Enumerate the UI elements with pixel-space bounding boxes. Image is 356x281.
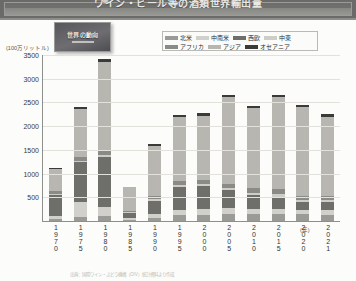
table-row[interactable] <box>173 115 186 221</box>
bar-segment-アジア <box>247 108 260 188</box>
bar-group: 1970197519801985199019952000200520102015… <box>43 55 340 221</box>
table-row[interactable] <box>272 95 285 221</box>
gridline <box>43 79 340 80</box>
table-row[interactable] <box>123 187 136 221</box>
legend-swatch-icon <box>196 36 209 40</box>
bar-slot: 1995 <box>167 55 192 221</box>
x-axis-tick-label: 2005 <box>225 224 233 252</box>
bar-segment-アジア <box>98 62 111 151</box>
bar-segment-西欧 <box>74 162 87 202</box>
legend-label: 中東 <box>279 34 291 42</box>
bar-segment-西欧 <box>321 202 334 210</box>
table-row[interactable] <box>321 114 334 221</box>
bar-segment-アジア <box>272 97 285 189</box>
legend-row-2: アフリカアジアオセアニア <box>165 42 315 51</box>
table-row[interactable] <box>74 107 87 221</box>
x-axis-tick-label: 1970 <box>51 224 59 252</box>
gridline <box>43 150 340 151</box>
bar-slot: 1985 <box>117 55 142 221</box>
gridline <box>43 197 340 198</box>
source-note: 出典：国際ワイン・ぶどう機構（OIV）統計資料より作成 <box>70 271 174 277</box>
bar-slot: 2005 <box>216 55 241 221</box>
legend-item-北米[interactable]: 北米 <box>165 34 192 42</box>
bar-slot: 1980 <box>93 55 118 221</box>
x-axis-tick-label: 1995 <box>175 224 183 252</box>
bar-segment-西欧 <box>296 202 309 209</box>
x-axis-unit: (年) <box>300 226 310 234</box>
bar-segment-中南米 <box>98 207 111 217</box>
table-row[interactable] <box>49 168 62 221</box>
legend-item-中南米[interactable]: 中南米 <box>196 34 229 42</box>
legend-item-中東[interactable]: 中東 <box>264 34 291 42</box>
bar-segment-北米 <box>49 219 62 221</box>
x-axis-tick-label: 2021 <box>324 224 332 252</box>
legend-item-アジア[interactable]: アジア <box>208 43 241 51</box>
bar-segment-北米 <box>321 215 334 221</box>
legend-label: オセアニア <box>260 43 290 51</box>
legend-item-オセアニア[interactable]: オセアニア <box>245 43 290 51</box>
legend-item-アフリカ[interactable]: アフリカ <box>165 43 204 51</box>
bar-segment-西欧 <box>148 201 161 214</box>
x-axis-tick-label: 2010 <box>249 224 257 252</box>
bar-slot: 1975 <box>68 55 93 221</box>
bar-segment-北米 <box>123 220 136 221</box>
bar-segment-北米 <box>197 215 210 221</box>
gridline <box>43 55 340 56</box>
table-row[interactable] <box>296 105 309 221</box>
gridline <box>43 174 340 175</box>
x-axis-tick-label: 2000 <box>200 224 208 252</box>
legend-label: 西欧 <box>248 34 260 42</box>
x-axis-tick-label: 1985 <box>126 224 134 252</box>
bar-segment-アジア <box>222 97 235 183</box>
bar-segment-北米 <box>173 215 186 221</box>
y-axis-tick-label: 3000 <box>23 75 39 82</box>
table-row[interactable] <box>197 113 210 221</box>
title-banner-frame: ワイン・ビール等の酒類世界輸出量 <box>4 2 352 16</box>
bar-segment-アジア <box>49 169 62 191</box>
bar-segment-アジア <box>148 146 161 197</box>
gridline <box>43 102 340 103</box>
bar-segment-北米 <box>148 218 161 221</box>
legend-label: 北米 <box>180 34 192 42</box>
table-row[interactable] <box>247 106 260 221</box>
bar-slot: 2021 <box>315 55 340 221</box>
y-axis-tick-label: 3500 <box>23 52 39 59</box>
bar-segment-北米 <box>98 216 111 221</box>
legend-swatch-icon <box>165 36 178 40</box>
bar-segment-北米 <box>272 214 285 221</box>
inset-thumbnail: 世界の動向 <box>54 22 111 52</box>
y-axis-tick-label: 2500 <box>23 99 39 106</box>
table-row[interactable] <box>222 95 235 221</box>
legend-swatch-icon <box>245 45 258 49</box>
legend-label: アフリカ <box>180 43 204 51</box>
y-axis-tick-label: 2000 <box>23 123 39 130</box>
table-row[interactable] <box>148 144 161 221</box>
x-axis-tick-label: 1990 <box>150 224 158 252</box>
bar-segment-北米 <box>247 214 260 221</box>
bar-slot: 1970 <box>43 55 68 221</box>
bar-segment-北米 <box>296 214 309 221</box>
legend-label: アジア <box>223 43 241 51</box>
legend-swatch-icon <box>233 36 246 40</box>
bar-segment-西欧 <box>222 190 235 207</box>
bar-slot: 2010 <box>241 55 266 221</box>
chart-legend: 北米中南米西欧中東 アフリカアジアオセアニア <box>162 31 318 51</box>
title-banner: ワイン・ビール等の酒類世界輸出量 <box>0 0 356 20</box>
bar-segment-西欧 <box>98 157 111 207</box>
banner-gradient <box>5 8 351 15</box>
legend-swatch-icon <box>165 45 178 49</box>
x-axis-tick-label: 1975 <box>76 224 84 252</box>
legend-swatch-icon <box>208 45 221 49</box>
bar-segment-西欧 <box>272 197 285 209</box>
bar-slot: 2020 <box>291 55 316 221</box>
bar-segment-西欧 <box>173 187 186 210</box>
y-axis-tick-label: 500 <box>27 194 39 201</box>
gridline <box>43 126 340 127</box>
x-axis-tick-label: 2015 <box>274 224 282 252</box>
plot-area: 1970197519801985199019952000200520102015… <box>42 55 340 222</box>
bar-slot: 1990 <box>142 55 167 221</box>
inset-divider <box>72 41 94 43</box>
bar-segment-西欧 <box>49 195 62 216</box>
legend-row-1: 北米中南米西欧中東 <box>165 33 315 42</box>
legend-item-西欧[interactable]: 西欧 <box>233 34 260 42</box>
